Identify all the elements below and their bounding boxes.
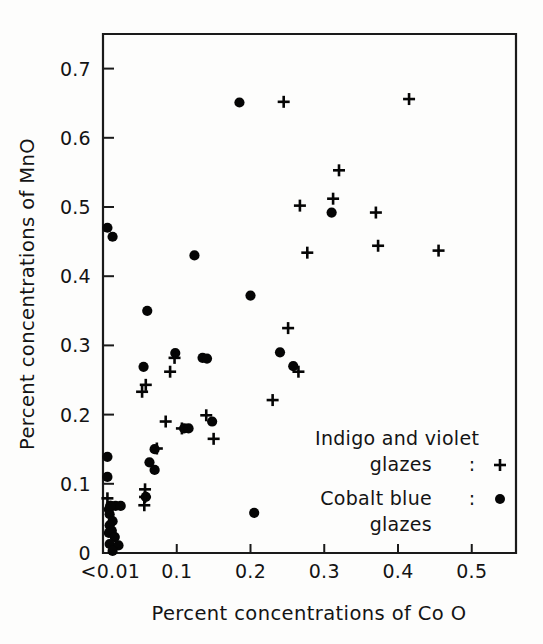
y-tick-label-1: 0.1 — [60, 473, 91, 495]
legend-dot-icon — [495, 494, 505, 504]
x-tick-label-5: 0.5 — [456, 560, 487, 582]
data-point-dot-4 — [189, 250, 199, 260]
data-point-plus-8 — [301, 247, 313, 259]
data-point-dot-5 — [245, 290, 255, 300]
data-point-dot-17 — [102, 452, 112, 462]
legend-separator-cobalt: : — [469, 487, 476, 509]
data-point-dot-24 — [116, 501, 126, 511]
data-point-plus-3 — [327, 193, 339, 205]
data-point-dot-35 — [107, 546, 117, 556]
y-tick-label-5: 0.5 — [60, 196, 91, 218]
legend-plus-icon — [494, 459, 506, 471]
data-point-plus-1 — [403, 93, 415, 105]
data-point-plus-0 — [278, 96, 290, 108]
data-point-dot-3 — [327, 207, 337, 217]
scatter-plot: <0.010.10.20.30.40.5 00.10.20.30.40.50.6… — [0, 0, 543, 644]
x-tick-label-4: 0.4 — [382, 560, 413, 582]
y-tick-label-3: 0.3 — [60, 334, 91, 356]
y-tick-label-2: 0.2 — [60, 404, 91, 426]
data-point-plus-17 — [160, 416, 172, 428]
plot-frame — [103, 34, 516, 553]
data-point-dot-12 — [288, 361, 298, 371]
data-point-plus-9 — [282, 322, 294, 334]
series-cobalt-blue-glazes — [102, 97, 336, 556]
data-point-dot-0 — [102, 223, 112, 233]
y-axis-tick-labels: 00.10.20.30.40.50.60.7 — [60, 58, 91, 564]
data-point-plus-7 — [433, 245, 445, 257]
data-point-plus-5 — [370, 207, 382, 219]
x-tick-label-3: 0.3 — [309, 560, 340, 582]
data-point-dot-27 — [249, 508, 259, 518]
y-axis-ticks — [103, 69, 114, 484]
legend-entry-cobalt-line2: glazes — [370, 513, 432, 535]
x-tick-label-2: 0.2 — [235, 560, 266, 582]
data-point-plus-2 — [333, 164, 345, 176]
y-axis-title: Percent concentrations of MnO — [16, 138, 39, 450]
y-tick-label-0: 0 — [79, 542, 91, 564]
legend-separator-indigo: : — [469, 453, 476, 475]
legend-entry-indigo-line1: Indigo and violet — [315, 427, 479, 449]
data-point-dot-1 — [107, 232, 117, 242]
plot-border — [103, 34, 516, 553]
x-axis-title: Percent concentrations of Co O — [151, 602, 466, 625]
data-point-dot-19 — [150, 465, 160, 475]
legend-entry-indigo-line2: glazes — [370, 453, 432, 475]
figure-canvas: <0.010.10.20.30.40.5 00.10.20.30.40.50.6… — [0, 0, 543, 644]
legend-entry-cobalt-line1: Cobalt blue — [320, 487, 432, 509]
data-point-plus-15 — [267, 394, 279, 406]
data-point-plus-6 — [372, 240, 384, 252]
data-point-dot-11 — [138, 362, 148, 372]
x-tick-label-1: 0.1 — [161, 560, 192, 582]
data-point-dot-6 — [142, 306, 152, 316]
data-point-dot-7 — [275, 347, 285, 357]
data-point-plus-4 — [294, 200, 306, 212]
data-point-dot-13 — [207, 416, 217, 426]
x-axis-tick-labels: <0.010.10.20.30.40.5 — [81, 560, 488, 582]
data-point-dot-2 — [234, 97, 244, 107]
x-axis-ticks — [110, 544, 471, 553]
y-tick-label-7: 0.7 — [60, 58, 91, 80]
data-point-plus-19 — [208, 433, 220, 445]
data-point-dot-20 — [102, 472, 112, 482]
data-point-dot-10 — [202, 353, 212, 363]
y-tick-label-6: 0.6 — [60, 127, 91, 149]
plot-legend: Indigo and violet glazes : Cobalt blue :… — [315, 427, 506, 535]
y-tick-label-4: 0.4 — [60, 265, 91, 287]
data-point-plus-11 — [164, 366, 176, 378]
